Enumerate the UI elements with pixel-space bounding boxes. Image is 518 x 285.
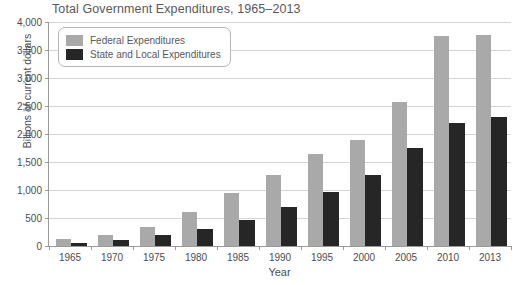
x-tick-mark xyxy=(301,246,302,250)
bar-state-local-2010[interactable] xyxy=(449,123,465,246)
y-tick-label: 1,500 xyxy=(17,157,42,168)
bar-federal-1980[interactable] xyxy=(182,212,198,246)
y-tick-mark xyxy=(45,134,49,135)
x-tick-mark xyxy=(175,246,176,250)
bar-federal-2000[interactable] xyxy=(350,140,366,246)
y-tick-mark xyxy=(45,190,49,191)
bar-group xyxy=(428,22,470,246)
bar-state-local-2005[interactable] xyxy=(407,148,423,246)
y-tick-label: 2,000 xyxy=(17,129,42,140)
y-tick-mark xyxy=(45,50,49,51)
x-tick-label-1965: 1965 xyxy=(59,252,81,263)
bar-group xyxy=(386,22,428,246)
legend-item-federal[interactable]: Federal Expenditures xyxy=(66,33,221,47)
bar-state-local-1970[interactable] xyxy=(113,240,129,246)
x-tick-mark xyxy=(427,246,428,250)
x-tick-label-2010: 2010 xyxy=(437,252,459,263)
y-tick-label: 2,500 xyxy=(17,101,42,112)
legend-label: State and Local Expenditures xyxy=(90,49,221,60)
x-tick-mark xyxy=(385,246,386,250)
x-tick-label-2005: 2005 xyxy=(395,252,417,263)
bar-group xyxy=(344,22,386,246)
x-tick-mark xyxy=(217,246,218,250)
legend-swatch-icon xyxy=(66,35,83,46)
x-tick-mark xyxy=(511,246,512,250)
y-tick-mark xyxy=(45,78,49,79)
bar-state-local-1975[interactable] xyxy=(155,235,171,246)
x-tick-label-1980: 1980 xyxy=(185,252,207,263)
x-tick-mark xyxy=(133,246,134,250)
bar-federal-1995[interactable] xyxy=(308,154,324,246)
bar-federal-1970[interactable] xyxy=(98,235,114,246)
legend-label: Federal Expenditures xyxy=(90,35,185,46)
y-tick-label: 0 xyxy=(36,241,42,252)
x-tick-mark xyxy=(259,246,260,250)
bar-group xyxy=(470,22,512,246)
bar-state-local-1965[interactable] xyxy=(71,243,87,246)
x-tick-mark xyxy=(49,246,50,250)
y-tick-mark xyxy=(45,218,49,219)
y-tick-label: 1,000 xyxy=(17,185,42,196)
x-tick-label-2000: 2000 xyxy=(353,252,375,263)
x-tick-label-1970: 1970 xyxy=(101,252,123,263)
x-tick-label-1990: 1990 xyxy=(269,252,291,263)
x-tick-label-1975: 1975 xyxy=(143,252,165,263)
bar-state-local-1985[interactable] xyxy=(239,220,255,246)
x-tick-label-1995: 1995 xyxy=(311,252,333,263)
y-tick-label: 3,000 xyxy=(17,73,42,84)
bar-group xyxy=(302,22,344,246)
x-tick-mark xyxy=(469,246,470,250)
x-axis-title: Year xyxy=(48,266,511,278)
bar-federal-2005[interactable] xyxy=(392,102,408,246)
x-tick-mark xyxy=(343,246,344,250)
y-axis-title: Billions of current dollars xyxy=(21,6,33,176)
y-tick-mark xyxy=(45,106,49,107)
x-tick-label-1985: 1985 xyxy=(227,252,249,263)
bar-federal-1975[interactable] xyxy=(140,227,156,246)
y-tick-mark xyxy=(45,22,49,23)
bar-group xyxy=(260,22,302,246)
y-tick-mark xyxy=(45,162,49,163)
y-tick-label: 4,000 xyxy=(17,17,42,28)
bar-federal-2010[interactable] xyxy=(434,36,450,246)
chart-container: Total Government Expenditures, 1965–2013… xyxy=(0,0,518,285)
bar-state-local-1995[interactable] xyxy=(323,192,339,246)
legend-swatch-icon xyxy=(66,49,83,60)
bar-federal-2013[interactable] xyxy=(476,35,492,246)
x-tick-label-2013: 2013 xyxy=(479,252,501,263)
bar-federal-1985[interactable] xyxy=(224,193,240,246)
bar-state-local-1990[interactable] xyxy=(281,207,297,246)
x-tick-mark xyxy=(91,246,92,250)
y-tick-label: 500 xyxy=(25,213,42,224)
bar-state-local-2013[interactable] xyxy=(491,117,507,246)
y-tick-label: 3,500 xyxy=(17,45,42,56)
bar-federal-1965[interactable] xyxy=(56,239,72,246)
bar-state-local-1980[interactable] xyxy=(197,229,213,246)
chart-legend: Federal ExpendituresState and Local Expe… xyxy=(58,27,231,67)
bar-federal-1990[interactable] xyxy=(266,175,282,246)
chart-title: Total Government Expenditures, 1965–2013 xyxy=(52,2,301,16)
legend-item-state-local[interactable]: State and Local Expenditures xyxy=(66,47,221,61)
bar-state-local-2000[interactable] xyxy=(365,175,381,246)
